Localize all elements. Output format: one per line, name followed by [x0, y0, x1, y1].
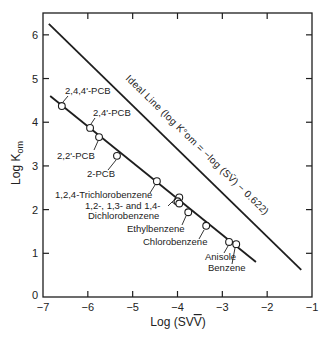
y-axis-title: Log Kom [9, 141, 25, 185]
chart: −7−6−5−4−3−2−1 0123456 2,4,4'-PCB2,4'-PC… [0, 0, 326, 340]
point-label: 2,4'-PCB [93, 107, 131, 118]
y-tick-label: 5 [32, 73, 38, 85]
point-label: Ethylbenzene [127, 223, 185, 234]
x-axis-title: Log (SVV) [150, 315, 205, 329]
x-tick-label: −2 [261, 301, 274, 313]
y-tick-label: 6 [32, 29, 38, 41]
x-tick-label: −5 [126, 301, 139, 313]
data-point-marker [96, 134, 103, 141]
data-point-marker [176, 200, 183, 207]
data-point-marker [114, 152, 121, 159]
x-tick-label: −6 [82, 301, 95, 313]
leader-line [63, 96, 68, 102]
y-tick-label: 1 [32, 247, 38, 259]
y-tick-label: 2 [32, 204, 38, 216]
point-label: 2,2'-PCB [57, 150, 95, 161]
point-labels: 2,4,4'-PCB2,4'-PCB2,2'-PCB2-PCB1,2,4-Tri… [55, 85, 246, 273]
y-tick-label: 0 [32, 289, 38, 301]
data-point-marker [87, 125, 94, 132]
x-tick-label: −1 [306, 301, 319, 313]
x-tick-label: −4 [171, 301, 184, 313]
data-point-marker [153, 178, 160, 185]
point-label: 1,2,4-Trichlorobenzene [55, 189, 152, 200]
point-label: 2,4,4'-PCB [65, 85, 111, 96]
leader-line [94, 141, 98, 150]
point-label: Anisole [205, 251, 236, 262]
data-point-marker [185, 209, 192, 216]
point-label: Benzene [208, 262, 246, 273]
data-point-marker [58, 103, 65, 110]
point-label: 2-PCB [87, 168, 115, 179]
data-point-marker [233, 241, 240, 248]
y-tick-label: 4 [32, 116, 38, 128]
x-tick-label: −7 [37, 301, 50, 313]
point-label: Chlorobenzene [143, 236, 207, 247]
data-point-marker [203, 222, 210, 229]
leader-line [91, 118, 95, 124]
y-tick-label: 3 [32, 160, 38, 172]
data-point-marker [226, 239, 233, 246]
x-axis-ticks: −7−6−5−4−3−2−1 [37, 13, 319, 313]
y-axis-ticks: 0123456 [32, 29, 312, 301]
point-label: Dichlorobenzene [88, 210, 159, 221]
x-tick-label: −3 [216, 301, 229, 313]
